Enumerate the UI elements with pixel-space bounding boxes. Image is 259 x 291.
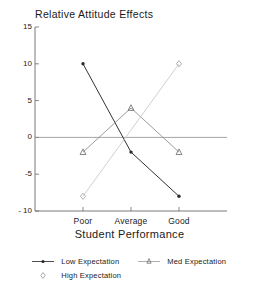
legend-label: Low Expectation (61, 257, 119, 266)
chart-legend: Low Expectation Med Expectation High Exp… (0, 252, 259, 291)
diamond-key-icon (32, 271, 54, 280)
legend-item-low-expectation: Low Expectation (32, 256, 119, 266)
y-tick-label: 0 (28, 132, 32, 141)
chart-title: Relative Attitude Effects (35, 8, 153, 20)
legend-label: Med Expectation (167, 257, 226, 266)
y-tick-label: - 10 (18, 206, 32, 215)
x-tick-label: Good (149, 216, 209, 226)
data-point (129, 150, 132, 153)
data-point (177, 195, 180, 198)
y-tick-label: -5 (25, 169, 32, 178)
y-tick-label: 5 (28, 96, 32, 105)
y-tick-label: 15 (23, 22, 32, 31)
legend-item-high-expectation: High Expectation (32, 270, 121, 280)
legend-label: High Expectation (61, 271, 121, 280)
plot-area (0, 0, 259, 291)
dot-line-key-icon (32, 257, 54, 266)
series-line (83, 64, 179, 196)
legend-item-med-expectation: Med Expectation (138, 256, 226, 266)
x-axis-label: Student Performance (0, 228, 259, 240)
data-point (81, 62, 84, 65)
y-tick-label: 10 (23, 59, 32, 68)
chart-container: Relative Attitude Effects Student Perfor… (0, 0, 259, 291)
triangle-line-key-icon (138, 257, 160, 266)
